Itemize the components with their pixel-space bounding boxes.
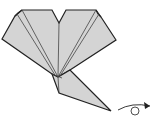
paper-tail bbox=[52, 70, 111, 111]
origami-figure bbox=[0, 0, 158, 122]
origami-diagram bbox=[0, 0, 158, 122]
turn-over-icon bbox=[118, 102, 150, 115]
